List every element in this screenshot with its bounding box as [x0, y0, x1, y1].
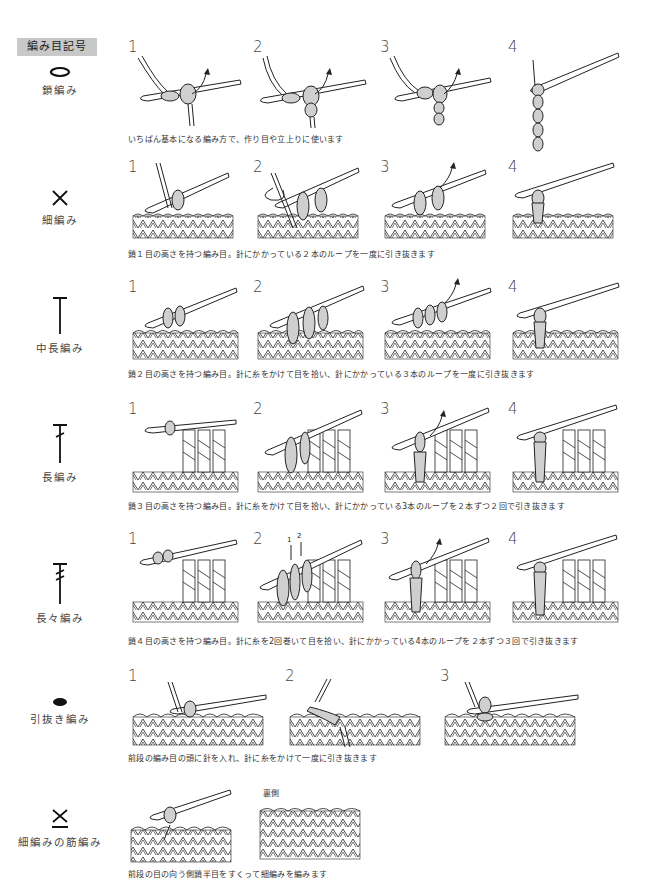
step-illustration: 2: [285, 667, 425, 751]
step-number: 4: [508, 278, 518, 296]
symbol-slip-stitch: 引抜き編み: [0, 697, 120, 726]
step-illustration: 2 1 2: [253, 530, 368, 630]
symbol-double-crochet: 長編み: [0, 423, 120, 484]
caption-single-crochet: 鎖１目の高さを持つ編み目。針にかかっている２本のループを一度に引き抜きます: [128, 248, 435, 259]
symbol-back-loop-single-crochet: 細編みの筋編み: [0, 808, 120, 849]
step-illustration: 4: [508, 278, 623, 367]
stitch-symbols-header: 編み目記号: [17, 38, 97, 56]
chain-step-illustration: [508, 38, 628, 158]
single-crochet-step-illustration: [508, 158, 618, 243]
step-number: 3: [440, 667, 450, 685]
illustration-row-back-loop: 裏側: [128, 785, 368, 865]
step-illustration: 4: [508, 38, 628, 162]
step-illustration: 1: [128, 278, 243, 367]
step-illustration: 4: [508, 158, 618, 247]
tr-step-illustration: [128, 530, 243, 626]
step-number: 3: [380, 530, 390, 548]
chain-step-illustration: [128, 38, 248, 128]
oval-outline-icon: [48, 66, 72, 78]
illustration-row-single-crochet: 1 2 3 4: [128, 158, 648, 244]
t-bar-two-slash-icon: [50, 562, 70, 606]
single-crochet-step-illustration: [128, 158, 238, 243]
step-illustration: 1: [128, 38, 248, 132]
step-illustration: 1: [128, 158, 238, 247]
step-illustration: 3: [440, 667, 580, 751]
illustration-row-double-crochet: 1 2 3 4: [128, 400, 648, 496]
tr-step-illustration: [380, 530, 495, 626]
symbol-treble-crochet: 長々編み: [0, 562, 120, 625]
step-illustration: 2: [253, 38, 373, 132]
illustration-row-slip-stitch: 1 2 3: [128, 667, 628, 747]
filled-oval-icon: [50, 697, 70, 707]
step-illustration: 4: [508, 530, 623, 630]
step-number: 4: [508, 400, 518, 418]
reverse-side-fabric-illustration: [258, 807, 363, 862]
step-illustration: 3: [380, 530, 495, 630]
step-number: 3: [380, 278, 390, 296]
step-number: 1: [128, 667, 138, 685]
chain-step-illustration: [253, 38, 373, 128]
step-illustration: 4: [508, 400, 623, 500]
stitch-name: 引抜き編み: [0, 711, 120, 726]
stitch-name: 細編み: [0, 212, 120, 227]
x-cross-icon: [50, 188, 70, 208]
step-illustration: 2: [253, 400, 368, 500]
caption-slip-stitch: 前段の編み目の頭に針を入れ、針に糸をかけて一度に引き抜きます: [128, 752, 377, 763]
arrow-label: 2: [297, 532, 301, 540]
step-number: 1: [128, 400, 138, 418]
illustration-row-half-double-crochet: 1 2 3 4: [128, 278, 648, 364]
step-illustration: 3: [380, 158, 490, 247]
step-number: 3: [380, 158, 390, 176]
step-number: 4: [508, 530, 518, 548]
symbol-single-crochet: 細編み: [0, 188, 120, 227]
step-number: 4: [508, 158, 518, 176]
step-number: 2: [253, 38, 263, 56]
caption-back-loop: 前段の目の向う側鎖半目をすくって細編みを編みます: [128, 868, 327, 879]
step-number: 1: [128, 530, 138, 548]
step-illustration: 3: [380, 38, 500, 132]
caption-chain: いちばん基本になる編み方で、作り目や立上りに使います: [128, 133, 344, 144]
dc-step-illustration: [128, 400, 243, 496]
step-number: 2: [253, 530, 263, 548]
stitch-name: 細編みの筋編み: [0, 834, 120, 849]
step-number: 2: [253, 400, 263, 418]
step-illustration: 1: [128, 530, 243, 630]
step-illustration: 3: [380, 400, 495, 500]
step-number: 2: [253, 278, 263, 296]
symbol-chain-stitch: 鎖編み: [0, 66, 120, 97]
stitch-name: 中長編み: [0, 340, 120, 355]
step-number: 2: [253, 158, 263, 176]
step-number: 4: [508, 38, 518, 56]
slip-stitch-step-illustration: [128, 667, 268, 747]
x-cross-underline-icon: [50, 808, 70, 830]
dc-step-illustration: [253, 400, 368, 496]
caption-half-double-crochet: 鎖２目の高さを持つ編み目。針に糸をかけて目を拾い、針にかかっている３本のループを…: [128, 368, 535, 379]
hdc-step-illustration: [128, 278, 243, 363]
illustration-row-chain: 1 2 3: [128, 38, 648, 130]
t-bar-one-slash-icon: [50, 423, 70, 465]
step-number: 1: [128, 278, 138, 296]
arrow-label: 1: [287, 536, 291, 544]
slip-stitch-step-illustration: [440, 667, 580, 747]
hdc-step-illustration: [508, 278, 623, 363]
slip-stitch-step-illustration: [285, 667, 425, 747]
step-number: 1: [128, 158, 138, 176]
caption-treble-crochet: 鎖４目の高さを持つ編み目。針に糸を2回巻いて目を拾い、針にかかっている4本のルー…: [128, 635, 579, 646]
step-illustration: 1: [128, 400, 243, 500]
stitch-name: 長々編み: [0, 610, 120, 625]
step-number: 3: [380, 38, 390, 56]
tr-step-illustration: [508, 530, 623, 626]
dc-step-illustration: [380, 400, 495, 496]
stitch-name: 鎖編み: [0, 82, 120, 97]
single-crochet-step-illustration: [253, 158, 363, 243]
chain-step-illustration: [380, 38, 500, 128]
step-illustration: 1: [128, 667, 268, 751]
step-illustration: 2: [253, 278, 368, 367]
hdc-step-illustration: [380, 278, 495, 363]
hdc-step-illustration: [253, 278, 368, 363]
t-bar-icon: [50, 296, 70, 336]
step-number: 1: [128, 38, 138, 56]
caption-double-crochet: 鎖３目の高さを持つ編み目。針に糸をかけて目を拾い、針にかかっている3本のループを…: [128, 500, 565, 511]
back-loop-illustration: [128, 785, 233, 865]
single-crochet-step-illustration: [380, 158, 490, 243]
